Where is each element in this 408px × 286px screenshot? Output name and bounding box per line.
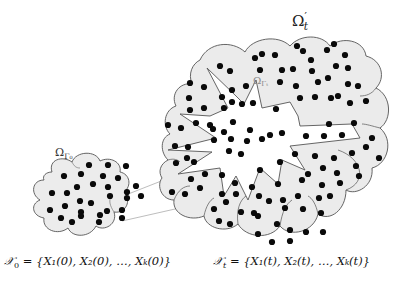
outer-particle — [249, 184, 255, 190]
outer-particle — [347, 100, 353, 106]
outer-particle — [280, 197, 286, 203]
outer-particle — [308, 57, 314, 63]
outer-particle — [256, 193, 262, 199]
outer-particle — [363, 144, 369, 150]
outer-particle — [232, 180, 238, 186]
initial-particle — [58, 215, 64, 221]
outer-particle — [274, 221, 280, 227]
diagram-canvas — [0, 0, 408, 286]
outer-particle — [219, 191, 225, 197]
initial-particle — [119, 207, 125, 213]
outer-particle — [349, 150, 355, 156]
outer-particle — [230, 119, 236, 125]
outer-particle — [201, 84, 207, 90]
outer-particle — [173, 160, 179, 166]
outer-particle — [312, 153, 318, 159]
outer-particle — [273, 106, 279, 112]
outer-particle — [229, 99, 235, 105]
outer-particle — [186, 95, 192, 101]
outer-particle — [351, 120, 357, 126]
outer-particle — [312, 94, 318, 100]
initial-particle — [119, 215, 125, 221]
outer-particle — [287, 238, 293, 244]
initial-particle — [61, 173, 67, 179]
outer-particle — [287, 227, 293, 233]
outer-particle — [292, 151, 298, 157]
outer-particle — [342, 52, 348, 58]
initial-particle — [88, 200, 94, 206]
outer-particle — [219, 172, 225, 178]
inner-region-label: ΩΓₜ — [253, 75, 268, 88]
outer-particle — [324, 47, 330, 53]
initial-particle — [74, 184, 80, 190]
initial-particle — [133, 183, 139, 189]
initial-particle — [104, 208, 110, 214]
initial-state-equation: 𝒳0 = {X₁(0), X₂(0), …, Xₖ(0)} — [4, 254, 171, 270]
initial-particle — [96, 219, 102, 225]
initial-particle — [78, 213, 84, 219]
outer-particle — [187, 80, 193, 86]
outer-particle — [187, 107, 193, 113]
outer-particle — [221, 105, 227, 111]
outer-particle — [255, 231, 261, 237]
outer-particle — [303, 133, 309, 139]
outer-particle — [293, 83, 299, 89]
outer-particle — [226, 148, 232, 154]
outer-particle — [369, 135, 375, 141]
outer-particle — [279, 67, 285, 73]
outer-particle — [244, 138, 250, 144]
initial-particle — [123, 163, 129, 169]
outer-particle — [315, 79, 321, 85]
outer-particle — [353, 163, 359, 169]
time-t-state-set: = {X₁(t), X₂(t), …, Xₖ(t)} — [226, 254, 370, 268]
time-t-state-equation: 𝒳t = {X₁(t), X₂(t), …, Xₖ(t)} — [213, 254, 370, 270]
outer-particle — [277, 159, 283, 165]
outer-particle — [266, 198, 272, 204]
outer-particle — [279, 130, 285, 136]
outer-region-symbol: Ω — [292, 12, 304, 30]
outer-particle — [243, 83, 249, 89]
initial-region-label: ΩΓ₀ — [55, 146, 73, 161]
time-t-state-symbol: 𝒳 — [213, 254, 223, 268]
outer-particle — [257, 167, 263, 173]
inner-region-subscript: Γₜ — [261, 80, 268, 88]
outer-region-label: Ω′t — [292, 10, 308, 32]
initial-particle — [138, 193, 144, 199]
outer-particle — [356, 173, 362, 179]
initial-particle — [100, 173, 106, 179]
outer-particle — [327, 193, 333, 199]
outer-particle — [333, 63, 339, 69]
outer-particle — [221, 129, 227, 135]
outer-particle — [309, 68, 315, 74]
outer-particle — [202, 171, 208, 177]
initial-particle — [69, 219, 75, 225]
outer-particle — [227, 221, 233, 227]
outer-particle — [239, 101, 245, 107]
outer-particle — [325, 75, 331, 81]
outer-particle — [211, 206, 217, 212]
initial-particle — [107, 193, 113, 199]
outer-particle — [282, 205, 288, 211]
outer-particle — [216, 218, 222, 224]
outer-particle — [345, 65, 351, 71]
outer-particle — [197, 185, 203, 191]
outer-particle — [267, 132, 273, 138]
outer-particle — [193, 120, 199, 126]
initial-particle — [64, 190, 70, 196]
outer-particle — [188, 176, 194, 182]
outer-particle — [238, 209, 244, 215]
initial-particle — [105, 162, 111, 168]
initial-region-symbol: Ω — [55, 146, 64, 159]
outer-particle — [201, 105, 207, 111]
outer-particle — [376, 155, 382, 161]
outer-particle — [247, 127, 253, 133]
outer-region-subscript: t — [304, 20, 308, 32]
outer-particle — [257, 67, 263, 73]
initial-particle — [77, 198, 83, 204]
initial-particle — [97, 212, 103, 218]
outer-particle — [227, 68, 233, 74]
outer-particle — [363, 98, 369, 104]
outer-particle — [223, 199, 229, 205]
outer-particle — [295, 193, 301, 199]
outer-particle — [319, 182, 325, 188]
